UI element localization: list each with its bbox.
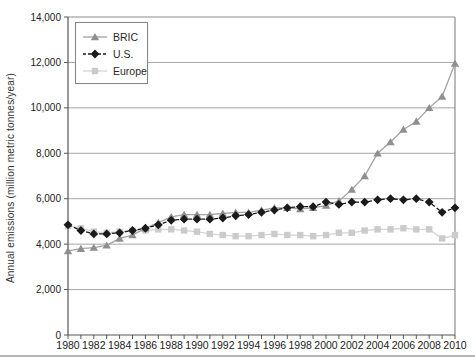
legend: BRIC U.S. Europe: [75, 22, 148, 84]
x-tick-label: 2004: [366, 339, 390, 351]
europe-data-point: [336, 230, 342, 236]
europe-data-point: [387, 226, 393, 232]
us-data-point: [451, 203, 460, 212]
europe-data-point: [349, 230, 355, 236]
x-tick-label: 2000: [314, 339, 338, 351]
europe-data-point: [181, 227, 187, 233]
x-tick-label: 2010: [443, 339, 467, 351]
europe-data-point: [194, 228, 200, 234]
bric-legend-marker: [82, 31, 108, 43]
us-data-point: [335, 200, 344, 209]
x-tick-label: 1984: [108, 339, 132, 351]
legend-label-bric: BRIC: [113, 31, 138, 43]
legend-swatch-marker: [92, 67, 98, 73]
x-tick-label: 2006: [392, 339, 416, 351]
europe-data-point: [207, 231, 213, 237]
europe-legend-marker: [82, 65, 108, 77]
x-tick-label: 2002: [340, 339, 364, 351]
europe-data-point: [310, 233, 316, 239]
bric-data-point: [451, 60, 459, 67]
europe-data-point: [362, 227, 368, 233]
emissions-chart: 02,0004,0006,0008,00010,00012,00014,0001…: [0, 0, 475, 352]
europe-data-point: [297, 232, 303, 238]
us-data-point: [399, 195, 408, 204]
x-tick-label: 1996: [263, 339, 287, 351]
us-legend-marker: [82, 48, 108, 60]
y-tick-label: 2,000: [36, 284, 61, 295]
europe-data-point: [413, 226, 419, 232]
us-data-point: [386, 194, 395, 203]
y-tick-label: 12,000: [30, 57, 61, 68]
chart-canvas: 02,0004,0006,0008,00010,00012,00014,0001…: [0, 0, 475, 352]
europe-data-point: [168, 226, 174, 232]
legend-label-europe: Europe: [113, 65, 147, 77]
y-tick-label: 6,000: [36, 193, 61, 204]
legend-swatch-marker: [91, 49, 100, 58]
x-tick-label: 2008: [418, 339, 442, 351]
bric-data-point: [438, 93, 446, 100]
europe-data-point: [439, 235, 445, 241]
europe-data-point: [258, 232, 264, 238]
europe-data-point: [233, 233, 239, 239]
gridlines: [68, 62, 455, 289]
europe-data-point: [284, 232, 290, 238]
page: 02,0004,0006,0008,00010,00012,00014,0001…: [0, 0, 475, 363]
europe-data-point: [323, 232, 329, 238]
us-data-point: [296, 202, 305, 211]
legend-label-us: U.S.: [113, 48, 133, 60]
x-tick-label: 1998: [289, 339, 313, 351]
legend-item-bric: BRIC: [82, 28, 142, 45]
series-bric: [64, 60, 459, 254]
bric-data-point: [361, 172, 369, 179]
y-axis-labels: 02,0004,0006,0008,00010,00012,00014,000: [30, 12, 68, 341]
europe-data-point: [400, 225, 406, 231]
x-tick-label: 1988: [160, 339, 184, 351]
legend-item-us: U.S.: [82, 45, 142, 62]
x-tick-label: 1992: [211, 339, 235, 351]
y-axis-title: Annual emissions (million metric tonnes/…: [5, 73, 16, 283]
europe-data-point: [271, 231, 277, 237]
us-data-point: [412, 194, 421, 203]
page-divider-line: [0, 355, 475, 357]
us-data-point: [167, 216, 176, 225]
y-tick-label: 4,000: [36, 239, 61, 250]
bric-data-point: [103, 241, 111, 248]
us-data-point: [373, 195, 382, 204]
x-tick-label: 1980: [56, 339, 80, 351]
bric-series-line: [68, 64, 455, 251]
x-tick-label: 1982: [82, 339, 106, 351]
us-data-point: [270, 206, 279, 215]
europe-data-point: [220, 232, 226, 238]
y-tick-label: 10,000: [30, 102, 61, 113]
europe-data-point: [452, 232, 458, 238]
x-axis-labels: 1980198219841986198819901992199419961998…: [56, 335, 467, 351]
y-tick-label: 8,000: [36, 148, 61, 159]
y-tick-label: 14,000: [30, 12, 61, 23]
legend-item-europe: Europe: [82, 62, 142, 79]
x-tick-label: 1986: [134, 339, 158, 351]
series-europe: [65, 223, 458, 242]
x-tick-label: 1990: [185, 339, 209, 351]
bric-data-point: [399, 126, 407, 133]
europe-data-point: [374, 226, 380, 232]
x-tick-label: 1994: [237, 339, 261, 351]
europe-data-point: [426, 226, 432, 232]
europe-data-point: [245, 233, 251, 239]
